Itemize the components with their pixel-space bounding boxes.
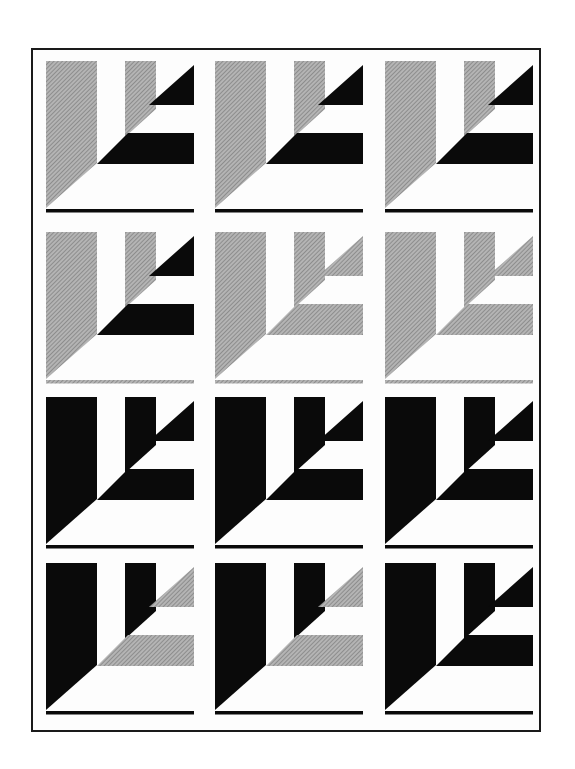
baseline-shape — [46, 209, 194, 213]
pattern-tile-r4-c2 — [215, 562, 365, 716]
middle-bar-shape — [294, 232, 325, 308]
left-bar-wedge-shape — [46, 61, 97, 208]
baseline-shape — [385, 209, 533, 213]
baseline-shape — [215, 545, 363, 549]
middle-stripe-shape — [436, 304, 533, 335]
middle-bar-shape — [125, 563, 156, 639]
left-bar-wedge-shape — [215, 397, 266, 544]
left-bar-wedge-shape — [215, 61, 266, 208]
middle-bar-shape — [464, 232, 495, 308]
pattern-tile-r4-c1 — [46, 562, 196, 716]
middle-bar-shape — [125, 397, 156, 473]
pattern-tile-r1-c1 — [46, 60, 196, 214]
baseline-shape — [385, 711, 533, 715]
pattern-tile-r3-c3 — [385, 396, 535, 550]
pattern-tile-r1-c2 — [215, 60, 365, 214]
left-bar-wedge-shape — [385, 61, 436, 208]
left-bar-wedge-shape — [46, 563, 97, 710]
middle-stripe-shape — [266, 635, 363, 666]
pattern-tile-r2-c1 — [46, 231, 196, 385]
middle-bar-shape — [294, 61, 325, 137]
baseline-shape — [215, 380, 363, 384]
baseline-shape — [46, 380, 194, 384]
left-bar-wedge-shape — [215, 563, 266, 710]
middle-stripe-shape — [266, 469, 363, 500]
pattern-tile-r4-c3 — [385, 562, 535, 716]
middle-bar-shape — [464, 397, 495, 473]
left-bar-wedge-shape — [385, 563, 436, 710]
pattern-tile-r2-c3 — [385, 231, 535, 385]
left-bar-wedge-shape — [46, 232, 97, 379]
middle-stripe-shape — [97, 133, 194, 164]
middle-stripe-shape — [97, 304, 194, 335]
baseline-shape — [385, 545, 533, 549]
pattern-tile-r3-c2 — [215, 396, 365, 550]
middle-bar-shape — [464, 61, 495, 137]
middle-bar-shape — [464, 563, 495, 639]
baseline-shape — [385, 380, 533, 384]
middle-bar-shape — [125, 232, 156, 308]
middle-stripe-shape — [97, 635, 194, 666]
middle-bar-shape — [125, 61, 156, 137]
middle-stripe-shape — [97, 469, 194, 500]
middle-stripe-shape — [436, 133, 533, 164]
left-bar-wedge-shape — [46, 397, 97, 544]
left-bar-wedge-shape — [215, 232, 266, 379]
baseline-shape — [46, 545, 194, 549]
baseline-shape — [215, 711, 363, 715]
left-bar-wedge-shape — [385, 232, 436, 379]
pattern-tile-r2-c2 — [215, 231, 365, 385]
middle-stripe-shape — [436, 635, 533, 666]
pattern-tile-r3-c1 — [46, 396, 196, 550]
pattern-tile-r1-c3 — [385, 60, 535, 214]
baseline-shape — [215, 209, 363, 213]
baseline-shape — [46, 711, 194, 715]
middle-stripe-shape — [436, 469, 533, 500]
middle-bar-shape — [294, 563, 325, 639]
left-bar-wedge-shape — [385, 397, 436, 544]
middle-bar-shape — [294, 397, 325, 473]
middle-stripe-shape — [266, 304, 363, 335]
middle-stripe-shape — [266, 133, 363, 164]
